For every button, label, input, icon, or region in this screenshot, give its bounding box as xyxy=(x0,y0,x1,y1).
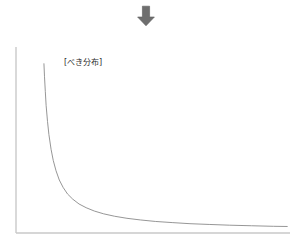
power-law-chart xyxy=(0,0,303,248)
figure-canvas: [べき分布] xyxy=(0,0,303,248)
chart-svg xyxy=(0,0,303,248)
power-law-curve xyxy=(44,64,287,227)
power-law-label: [べき分布] xyxy=(64,57,102,69)
